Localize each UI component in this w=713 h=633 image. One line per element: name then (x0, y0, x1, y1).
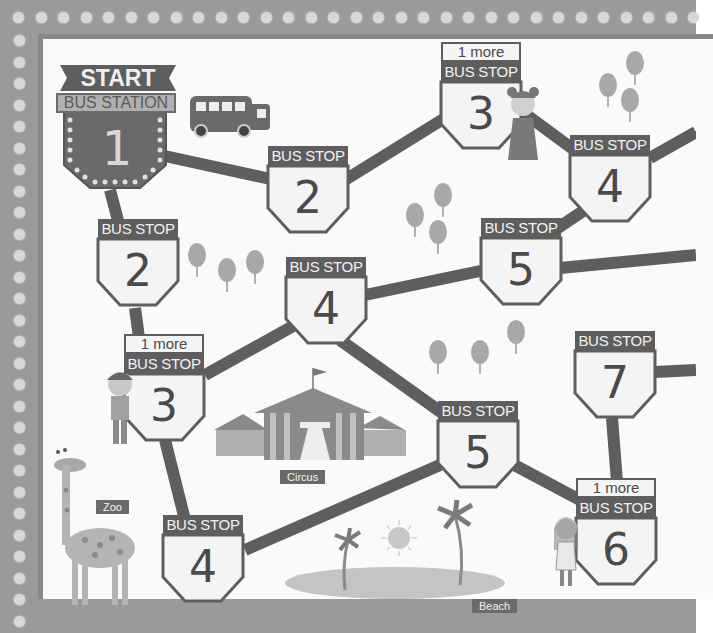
start-banner: START (60, 65, 176, 91)
bonus-label: 1 more (124, 334, 204, 354)
bus-stop-4-top[interactable]: BUS STOP 4 (570, 135, 650, 221)
bonus-label: 1 more (441, 42, 521, 62)
bus-icon (190, 96, 270, 137)
bonus-label: 1 more (576, 478, 656, 498)
zoo-label: Zoo (96, 500, 129, 514)
bus-stop-6[interactable]: 1 more BUS STOP 6 (576, 498, 656, 584)
bus-stop-4-bottom[interactable]: BUS STOP 4 (163, 515, 243, 601)
giraffe-icon (54, 448, 135, 605)
beach-label: Beach (472, 599, 517, 613)
bus-stop-5-low[interactable]: BUS STOP 5 (438, 401, 518, 487)
bus-stop-4-mid[interactable]: BUS STOP 4 (286, 257, 366, 343)
circus-label: Circus (280, 470, 325, 484)
bus-stop-5-mid[interactable]: BUS STOP 5 (481, 218, 561, 304)
bus-stop-7[interactable]: BUS STOP 7 (575, 331, 655, 417)
bus-station-label: BUS STATION (56, 93, 176, 113)
bus-stop-3-left[interactable]: 1 more BUS STOP 3 (124, 354, 204, 440)
bus-stop-3-top[interactable]: 1 more BUS STOP 3 (441, 62, 521, 148)
girl-character-bottom (554, 517, 578, 586)
bus-stop-2-top[interactable]: BUS STOP 2 (268, 146, 348, 232)
bus-stop-2-left[interactable]: BUS STOP 2 (98, 219, 178, 305)
circus-tent-icon (214, 368, 406, 460)
bus-station-number[interactable]: 1 (70, 118, 164, 178)
